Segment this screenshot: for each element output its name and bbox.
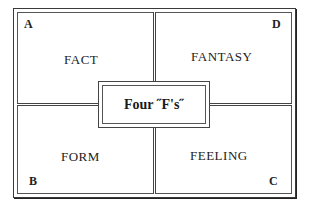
quadrant-label-form: FORM xyxy=(61,149,100,165)
center-title: Four ˝F's˝ xyxy=(124,97,184,113)
center-box-inner: Four ˝F's˝ xyxy=(102,85,206,124)
corner-label-c: C xyxy=(269,174,278,189)
corner-label-b: B xyxy=(29,174,37,189)
quadrant-label-fantasy: FANTASY xyxy=(191,49,252,65)
center-box: Four ˝F's˝ xyxy=(98,81,210,128)
four-fs-diagram: A FACT D FANTASY B FORM C FEELING Four ˝… xyxy=(0,0,312,210)
corner-label-d: D xyxy=(272,17,281,32)
quadrant-label-fact: FACT xyxy=(64,52,98,68)
outer-frame: A FACT D FANTASY B FORM C FEELING Four ˝… xyxy=(13,8,296,198)
quadrant-label-feeling: FEELING xyxy=(190,148,248,164)
corner-label-a: A xyxy=(24,17,33,32)
